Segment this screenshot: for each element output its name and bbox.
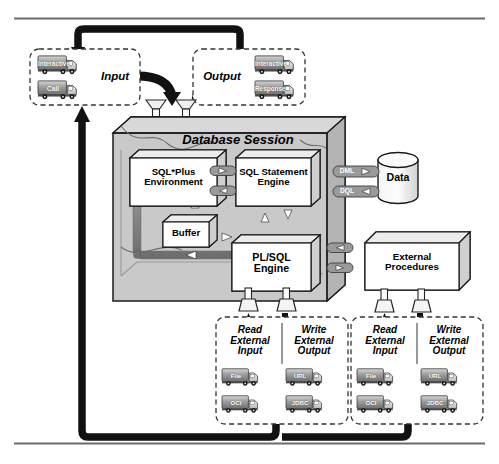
input-panel[interactable] <box>30 49 140 105</box>
extproc-outlet-funnel-write <box>412 300 431 312</box>
connector-sqlengine-to-sqlplus <box>210 186 236 196</box>
session-outlet-funnel-write <box>277 299 296 311</box>
plsql-engine-box[interactable] <box>232 235 320 291</box>
buffer-box[interactable] <box>163 215 217 247</box>
output-panel[interactable] <box>193 49 305 105</box>
io-panel-left[interactable] <box>216 317 348 424</box>
external-procedures-box[interactable] <box>365 232 470 290</box>
extproc-outlet-stems <box>381 289 425 301</box>
session-outlet-funnel-read <box>239 299 258 311</box>
connector-sqlplus-to-sqlengine <box>210 166 236 176</box>
data-channel-dml <box>333 166 379 177</box>
sqlplus-environment-box[interactable] <box>130 150 226 206</box>
connector-plsql-to-extproc-out <box>327 263 353 273</box>
io-panel-right[interactable] <box>351 317 483 424</box>
sql-statement-engine-box[interactable] <box>236 150 320 206</box>
extproc-outlet-funnel-read <box>375 300 394 312</box>
connector-plsql-to-extproc-in <box>327 243 353 253</box>
feedback-arrowhead-into-call-truck <box>74 106 90 122</box>
data-channel-dql <box>333 186 379 197</box>
diagram-canvas <box>0 0 499 464</box>
data-store-cylinder[interactable] <box>378 153 418 204</box>
